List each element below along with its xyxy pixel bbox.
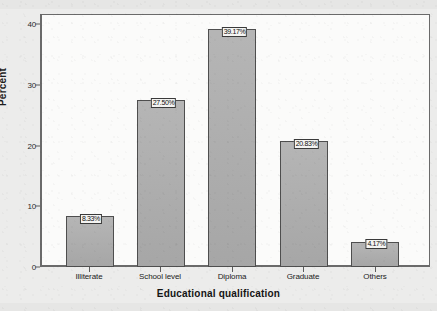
- bar-graduate[interactable]: [280, 141, 328, 268]
- bar-diploma[interactable]: [208, 29, 256, 267]
- scan-artifact-bottom: [0, 303, 437, 311]
- bar-value-label-others: 4.17%: [365, 239, 387, 249]
- scan-artifact-top: [0, 0, 437, 9]
- x-axis-category-label-others: Others: [363, 272, 386, 281]
- bar-value-label-diploma: 39.17%: [222, 27, 247, 37]
- y-axis-tick-label-0: 0: [0, 263, 36, 272]
- x-axis-category-label-graduate: Graduate: [287, 272, 320, 281]
- bar-value-label-illiterate: 8.33%: [80, 214, 102, 224]
- bar-group-illiterate: 8.33%: [66, 15, 114, 267]
- bar-group-others: 4.17%: [351, 15, 399, 267]
- bar-group-diploma: 39.17%: [208, 15, 256, 267]
- y-axis-tick-label-10: 10: [0, 202, 36, 211]
- plot-area: 8.33% 27.50% 39.17% 20.83% 4.17%: [42, 15, 429, 267]
- bar-chart-figure: Percent 0 10 20 30 40 8.33% 27.50% 39.17…: [0, 0, 437, 311]
- x-axis-category-label-diploma: Diploma: [218, 272, 247, 281]
- bar-value-label-school-level: 27.50%: [151, 98, 176, 108]
- bar-value-label-graduate: 20.83%: [294, 139, 319, 149]
- y-axis-tick-label-30: 30: [0, 80, 36, 89]
- x-axis-category-label-school-level: School level: [139, 272, 181, 281]
- bar-school-level[interactable]: [137, 100, 185, 267]
- x-axis-title: Educational qualification: [0, 288, 437, 299]
- y-axis-tick-label-40: 40: [0, 20, 36, 29]
- y-axis-tick-label-20: 20: [0, 141, 36, 150]
- x-axis-category-label-illiterate: Illiterate: [75, 272, 102, 281]
- bar-group-school-level: 27.50%: [137, 15, 185, 267]
- bar-group-graduate: 20.83%: [280, 15, 328, 267]
